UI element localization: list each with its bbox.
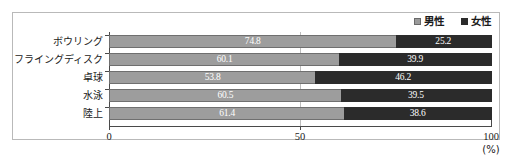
bar-value-female-2: 46.2 — [395, 73, 411, 83]
bar-segment-male-0: 74.8 — [109, 35, 396, 48]
bar-segment-female-0: 25.2 — [396, 35, 493, 48]
y-tick-mark — [105, 35, 109, 36]
category-label-0: ボウリング — [53, 35, 103, 48]
table-row: 水泳 60.5 39.5 — [109, 89, 492, 102]
bar-value-male-0: 74.8 — [245, 37, 261, 47]
x-tick-mark-0 — [109, 126, 110, 130]
chart-legend: 男性 女性 — [414, 16, 491, 27]
table-row: 卓球 53.8 46.2 — [109, 71, 492, 84]
x-tick-label-50: 50 — [295, 131, 306, 142]
legend-item-male: 男性 — [414, 16, 444, 27]
bar-value-male-1: 60.1 — [217, 55, 233, 65]
figure-caption — [0, 152, 517, 165]
table-row: フライングディスク 60.1 39.9 — [109, 53, 492, 66]
x-tick-label-0: 0 — [106, 131, 111, 142]
x-tick-mark-50 — [300, 126, 301, 130]
legend-swatch-female-icon — [461, 18, 468, 25]
bar-value-male-2: 53.8 — [205, 73, 221, 83]
table-row: ボウリング 74.8 25.2 — [109, 35, 492, 48]
table-row: 陸上 61.4 38.6 — [109, 107, 492, 120]
bar-value-female-4: 38.6 — [410, 109, 426, 119]
bar-segment-female-3: 39.5 — [341, 89, 492, 102]
y-tick-mark — [105, 53, 109, 54]
y-tick-mark — [105, 107, 109, 108]
bar-segment-male-3: 60.5 — [109, 89, 341, 102]
bar-segment-male-2: 53.8 — [109, 71, 315, 84]
plot-area: ボウリング 74.8 25.2 フライングディスク 60.1 39.9 卓球 — [109, 32, 492, 127]
bar-value-female-0: 25.2 — [435, 37, 451, 47]
x-tick-label-100: 100 — [483, 131, 499, 142]
bar-segment-female-4: 38.6 — [344, 107, 492, 120]
legend-swatch-male-icon — [414, 18, 421, 25]
bar-segment-male-1: 60.1 — [109, 53, 339, 66]
legend-item-female: 女性 — [461, 16, 491, 27]
category-label-3: 水泳 — [83, 89, 103, 102]
category-label-1: フライングディスク — [14, 53, 103, 66]
category-label-4: 陸上 — [83, 107, 103, 120]
bar-value-female-3: 39.5 — [408, 91, 424, 101]
bar-segment-male-4: 61.4 — [109, 107, 344, 120]
x-tick-mark-100 — [491, 120, 492, 127]
legend-label-female: 女性 — [471, 16, 491, 27]
bar-value-male-3: 60.5 — [217, 91, 233, 101]
y-tick-mark — [105, 89, 109, 90]
y-tick-mark — [105, 71, 109, 72]
legend-label-male: 男性 — [424, 16, 444, 27]
bar-segment-female-1: 39.9 — [339, 53, 492, 66]
category-label-2: 卓球 — [83, 71, 103, 84]
bar-segment-female-2: 46.2 — [315, 71, 492, 84]
chart-frame: 男性 女性 ボウリング 74.8 25.2 フライングディスク — [12, 12, 500, 140]
bar-value-male-4: 61.4 — [219, 109, 235, 119]
bar-value-female-1: 39.9 — [407, 55, 423, 65]
